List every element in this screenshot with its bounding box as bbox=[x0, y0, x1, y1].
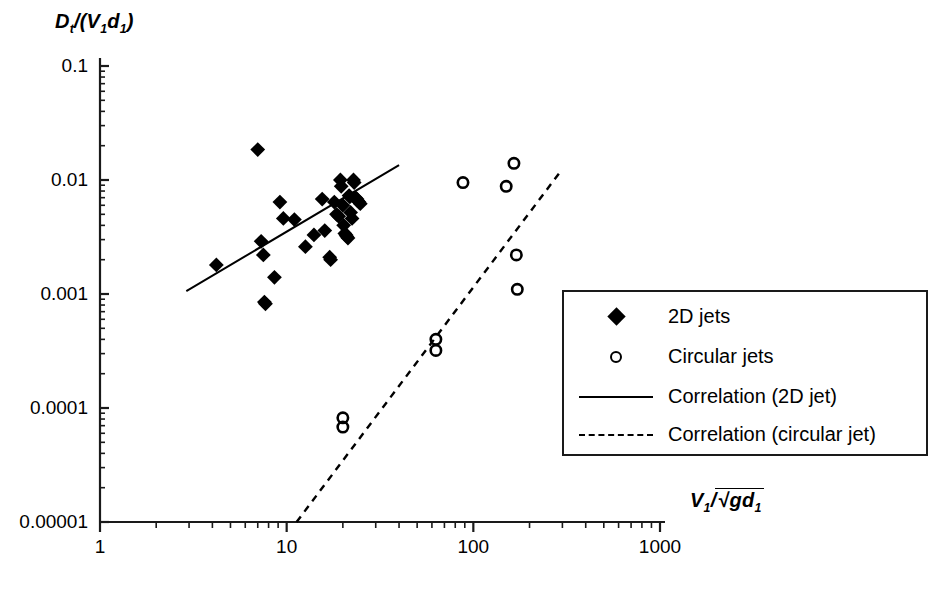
y-axis-tick-label: 0.001 bbox=[40, 283, 88, 305]
data-point-2d-jet bbox=[298, 239, 313, 254]
x-axis-tick-label: 100 bbox=[457, 536, 489, 558]
correlation-line-solid bbox=[186, 165, 399, 291]
solid-line-icon bbox=[564, 396, 668, 398]
data-point-2d-jet bbox=[273, 195, 288, 210]
y-axis-tick-label: 0.00001 bbox=[19, 511, 88, 533]
legend-item-circular-jets: Circular jets bbox=[564, 336, 926, 377]
legend-item-correlation-2d: Correlation (2D jet) bbox=[564, 376, 926, 417]
data-point-2d-jet bbox=[258, 296, 273, 311]
data-point-circular-jet bbox=[509, 158, 519, 168]
dashed-line-icon bbox=[564, 434, 668, 436]
data-point-2d-jet bbox=[315, 192, 330, 207]
data-point-circular-jet bbox=[501, 181, 511, 191]
data-point-circular-jet bbox=[511, 250, 521, 260]
legend-label: Correlation (circular jet) bbox=[668, 423, 876, 446]
legend-box: 2D jets Circular jets Correlation (2D je… bbox=[562, 290, 928, 456]
x-axis-tick-label: 1 bbox=[95, 536, 106, 558]
legend-label: Circular jets bbox=[668, 345, 774, 368]
filled-diamond-icon bbox=[564, 310, 668, 323]
y-axis-tick-label: 0.0001 bbox=[30, 397, 88, 419]
y-axis-tick-label: 0.01 bbox=[51, 169, 88, 191]
legend-label: 2D jets bbox=[668, 305, 730, 328]
data-point-circular-jet bbox=[431, 334, 441, 344]
data-point-2d-jet bbox=[250, 142, 265, 157]
data-point-circular-jet bbox=[458, 177, 468, 187]
x-axis-tick-label: 1000 bbox=[639, 536, 681, 558]
open-circle-icon bbox=[564, 351, 668, 363]
data-point-2d-jet bbox=[267, 270, 282, 285]
legend-item-2d-jets: 2D jets bbox=[564, 296, 926, 337]
chart-figure: Dt/(V1d1) V1/√gd1 0.10.010.0010.00010.00… bbox=[0, 0, 938, 589]
data-point-circular-jet bbox=[512, 284, 522, 294]
x-axis-tick-label: 10 bbox=[276, 536, 297, 558]
data-point-2d-jet bbox=[256, 248, 271, 263]
y-axis-tick-label: 0.1 bbox=[62, 55, 88, 77]
legend-label: Correlation (2D jet) bbox=[668, 385, 837, 408]
correlation-line-dashed bbox=[297, 169, 563, 522]
legend-item-correlation-circular: Correlation (circular jet) bbox=[564, 414, 926, 455]
data-point-2d-jet bbox=[254, 234, 269, 249]
data-point-circular-jet bbox=[431, 345, 441, 355]
